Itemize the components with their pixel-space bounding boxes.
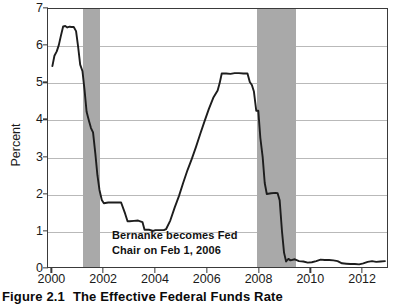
x-tick-mark [103,268,104,273]
x-tick-mark [51,268,52,273]
figure-container: Percent 01234567 20002002200420062008201… [0,0,398,308]
x-tick-label: 2004 [141,272,169,286]
x-tick-mark [310,268,311,273]
x-tick-mark [206,268,207,273]
figure-number: Figure 2.1 [2,289,65,304]
y-tick-label: 2 [31,187,43,201]
x-tick-label: 2000 [37,272,65,286]
x-tick-label: 2012 [348,272,376,286]
bernanke-annotation: Bernanke becomes Fed Chair on Feb 1, 200… [112,228,238,257]
x-tick-label: 2002 [89,272,117,286]
figure-title: The Effective Federal Funds Rate [73,289,283,304]
y-tick-label: 5 [31,75,43,89]
y-axis-title: Percent [9,105,23,185]
x-tick-label: 2008 [245,272,273,286]
y-tick-label: 1 [31,224,43,238]
x-tick-label: 2010 [296,272,324,286]
y-tick-label: 7 [31,1,43,15]
x-tick-mark [361,268,362,273]
x-tick-mark [154,268,155,273]
x-tick-label: 2006 [193,272,221,286]
y-tick-label: 6 [31,38,43,52]
y-tick-label: 4 [31,112,43,126]
x-tick-mark [258,268,259,273]
y-tick-label: 3 [31,150,43,164]
figure-caption: Figure 2.1The Effective Federal Funds Ra… [2,289,283,304]
